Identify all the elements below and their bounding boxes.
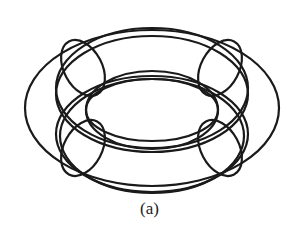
figure-caption: (a) bbox=[0, 199, 299, 219]
outer-top-ring-ellipse bbox=[56, 28, 248, 148]
